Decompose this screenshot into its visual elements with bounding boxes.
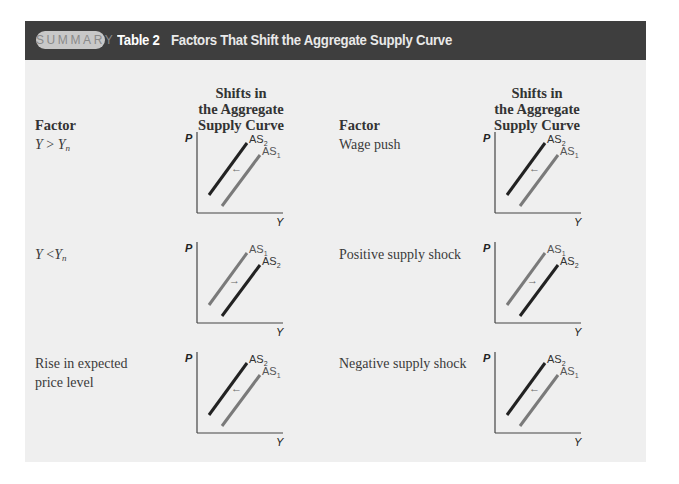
factor-y-above-yn: Y > Yn xyxy=(35,135,70,158)
table-header: SUMMARY Table 2 Factors That Shift the A… xyxy=(25,21,646,60)
arrow-left-icon: ← xyxy=(529,382,540,394)
as1-label: AS1 xyxy=(560,145,579,159)
arrow-left-icon: ← xyxy=(231,162,242,174)
as1-label: AS1 xyxy=(560,365,579,379)
axis-label-p: P xyxy=(483,242,491,254)
factor-subscript: n xyxy=(62,253,67,263)
axis-label-y: Y xyxy=(276,326,284,338)
arrow-right-icon: → xyxy=(229,274,240,286)
as-shift-graph-left-1: P Y AS2 AS1 ← xyxy=(185,130,285,230)
arrow-left-icon: ← xyxy=(231,382,242,394)
factor-rise-expected-price: Rise in expected price level xyxy=(35,354,128,392)
left-shift-header-line1: Shifts in xyxy=(171,85,311,101)
as-curve-shifted xyxy=(222,265,260,316)
factor-operator: > xyxy=(43,137,58,152)
as-shift-graph-right-1: P Y AS2 AS1 ← xyxy=(483,130,583,230)
axis-label-p: P xyxy=(483,132,491,144)
axis-label-p: P xyxy=(185,352,193,364)
factor-subscript: n xyxy=(66,143,71,153)
axis-label-y: Y xyxy=(574,216,582,228)
axis-label-y: Y xyxy=(276,436,284,448)
axis-label-y: Y xyxy=(574,436,582,448)
axis-label-y: Y xyxy=(574,326,582,338)
factor-negative-supply-shock: Negative supply shock xyxy=(339,354,467,373)
factor-operator: < xyxy=(43,247,54,262)
axis-label-y: Y xyxy=(276,216,284,228)
arrow-right-icon: → xyxy=(527,274,538,286)
as-shift-graph-right-3: P Y AS2 AS1 ← xyxy=(483,350,583,450)
factor-positive-supply-shock: Positive supply shock xyxy=(339,245,461,264)
right-shift-header: Shifts in the Aggregate Supply Curve xyxy=(467,85,607,133)
left-shift-header-line2: the Aggregate xyxy=(171,101,311,117)
factor-y: Y xyxy=(35,137,43,152)
factor-y: Y xyxy=(35,247,43,262)
factor-line1: Rise in expected xyxy=(35,354,128,373)
table-title: Factors That Shift the Aggregate Supply … xyxy=(171,29,452,51)
factor-y: Y xyxy=(54,247,62,262)
as-curve-original xyxy=(209,253,247,305)
as-curve-shifted xyxy=(520,265,558,316)
as2-label: AS2 xyxy=(262,255,281,269)
as2-label: AS2 xyxy=(560,255,579,269)
summary-badge: SUMMARY xyxy=(36,31,105,49)
axis-label-p: P xyxy=(185,242,193,254)
axis-label-p: P xyxy=(185,132,193,144)
factor-y-below-yn: Y <Yn xyxy=(35,245,67,268)
as-curve-original xyxy=(507,253,545,305)
right-shift-header-line2: the Aggregate xyxy=(467,101,607,117)
as1-label: AS1 xyxy=(262,365,281,379)
right-shift-header-line1: Shifts in xyxy=(467,85,607,101)
as1-label: AS1 xyxy=(262,145,281,159)
axis-label-p: P xyxy=(483,352,491,364)
as-shift-graph-left-3: P Y AS2 AS1 ← xyxy=(185,350,285,450)
as-shift-graph-right-2: P Y AS1 AS2 → xyxy=(483,240,583,340)
as-shift-graph-left-2: P Y AS1 AS2 → xyxy=(185,240,285,340)
left-shift-header: Shifts in the Aggregate Supply Curve xyxy=(171,85,311,133)
left-factor-header: Factor xyxy=(35,117,76,133)
factor-wage-push: Wage push xyxy=(339,135,400,154)
arrow-left-icon: ← xyxy=(529,162,540,174)
table-number: Table 2 xyxy=(117,29,160,51)
factor-y: Y xyxy=(58,137,66,152)
factor-line2: price level xyxy=(35,373,128,392)
right-factor-header: Factor xyxy=(339,117,380,133)
